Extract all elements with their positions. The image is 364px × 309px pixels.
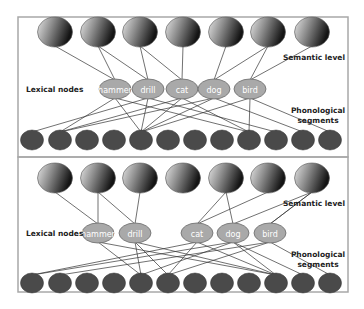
phonological-link <box>115 98 249 132</box>
semantic-node <box>123 163 158 193</box>
semantic-link <box>270 192 312 224</box>
lexical-nodes-label: Lexical nodes <box>26 85 84 94</box>
lexical-node-label: bird <box>262 230 278 239</box>
semantic-node <box>251 17 286 47</box>
semantic-link <box>197 192 268 224</box>
phonological-segments-label: Phonological <box>291 106 345 115</box>
figure-stage: hammerdrillcatdogbirdLexical nodesSemant… <box>0 0 364 309</box>
lexical-node-label: drill <box>127 230 142 239</box>
phonological-node <box>265 130 288 150</box>
semantic-node <box>81 163 116 193</box>
lexical-node-label: dog <box>225 230 240 239</box>
phonological-link <box>60 98 115 132</box>
phonological-node <box>319 130 342 150</box>
lexical-node-label: hammer <box>81 230 115 239</box>
phonological-node <box>49 273 72 293</box>
phonological-node <box>103 130 126 150</box>
lexical-node-label: cat <box>176 86 188 95</box>
semantic-link <box>197 192 226 224</box>
phonological-link <box>141 98 214 132</box>
phonological-link <box>148 98 276 132</box>
lexical-nodes-label: Lexical nodes <box>26 229 84 238</box>
phonological-node <box>76 273 99 293</box>
phonological-node <box>157 273 180 293</box>
phonological-node <box>21 130 44 150</box>
semantic-node <box>38 163 73 193</box>
semantic-node <box>209 163 244 193</box>
network-diagram: hammerdrillcatdogbirdLexical nodesSemant… <box>0 0 364 309</box>
phonological-node <box>76 130 99 150</box>
phonological-node <box>211 130 234 150</box>
semantic-node <box>166 163 201 193</box>
semantic-link <box>182 46 183 80</box>
semantic-link <box>55 192 98 224</box>
semantic-node <box>166 17 201 47</box>
phonological-link <box>60 242 270 275</box>
phonological-node <box>292 273 315 293</box>
semantic-link <box>140 46 182 80</box>
phonological-node <box>238 130 261 150</box>
phonological-node <box>184 273 207 293</box>
semantic-node <box>251 163 286 193</box>
phonological-node <box>49 130 72 150</box>
phonological-node <box>292 130 315 150</box>
phonological-link <box>32 98 148 132</box>
phonological-segments-label-2: segments <box>297 260 339 269</box>
semantic-link <box>135 192 140 224</box>
semantic-node <box>38 17 73 47</box>
semantic-level-label: Semantic level <box>283 199 345 208</box>
phonological-node <box>238 273 261 293</box>
lexical-node-label: cat <box>191 230 203 239</box>
phonological-node <box>211 273 234 293</box>
phonological-node <box>130 130 153 150</box>
phonological-node <box>265 273 288 293</box>
phonological-node <box>21 273 44 293</box>
semantic-level-label: Semantic level <box>283 53 345 62</box>
phonological-node <box>130 273 153 293</box>
lexical-node-label: bird <box>242 86 258 95</box>
phonological-node <box>103 273 126 293</box>
panel-bottom: hammerdrillcatdogbirdLexical nodesSemant… <box>21 163 346 293</box>
phonological-segments-label-2: segments <box>297 116 339 125</box>
phonological-link <box>32 242 233 275</box>
semantic-link <box>233 192 312 224</box>
semantic-link <box>98 192 135 224</box>
semantic-link <box>214 46 226 80</box>
phonological-segments-label: Phonological <box>291 250 345 259</box>
semantic-node <box>209 17 244 47</box>
lexical-node-label: dog <box>206 86 221 95</box>
semantic-node <box>123 17 158 47</box>
semantic-node <box>295 163 330 193</box>
phonological-link <box>141 98 250 132</box>
semantic-node <box>81 17 116 47</box>
phonological-node <box>319 273 342 293</box>
lexical-node-label: hammer <box>98 86 132 95</box>
phonological-link <box>60 98 182 132</box>
phonological-node <box>157 130 180 150</box>
lexical-node-label: drill <box>140 86 155 95</box>
phonological-node <box>184 130 207 150</box>
semantic-node <box>295 17 330 47</box>
panel-top: hammerdrillcatdogbirdLexical nodesSemant… <box>21 17 346 150</box>
phonological-link <box>249 98 250 132</box>
